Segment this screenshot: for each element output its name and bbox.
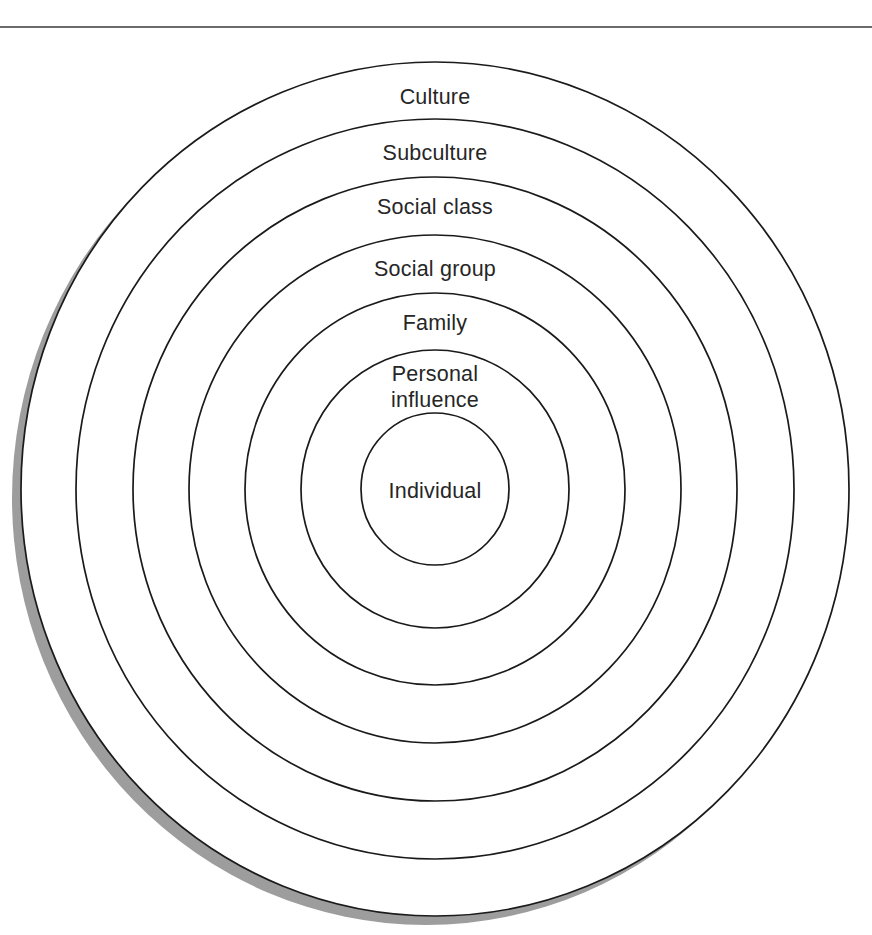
ring-label-family: Family bbox=[403, 310, 468, 336]
ring-label-personal-influence: Personal influence bbox=[391, 361, 479, 413]
ring-label-culture: Culture bbox=[400, 84, 471, 110]
ring-label-subculture: Subculture bbox=[383, 140, 488, 166]
ring-label-social-class: Social class bbox=[377, 194, 493, 220]
diagram-page: CultureSubcultureSocial classSocial grou… bbox=[0, 0, 872, 935]
ring-label-social-group: Social group bbox=[374, 256, 496, 282]
ring-label-individual: Individual bbox=[389, 478, 482, 504]
